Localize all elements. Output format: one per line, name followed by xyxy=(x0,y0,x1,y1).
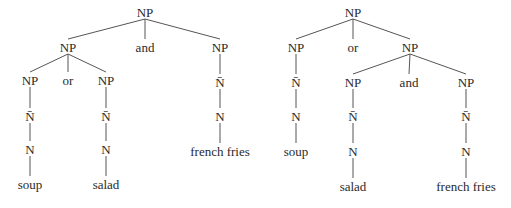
tree-node-label: N xyxy=(25,142,35,157)
tree-node-label: and xyxy=(400,75,419,90)
tree-edge xyxy=(409,54,410,74)
syntax-tree-diagram: NPNPandNPNPorNPN̄NsoupN̄NsaladN̄Nfrench … xyxy=(0,0,511,208)
tree-node-label: soup xyxy=(284,144,309,159)
tree-node-label: N̄ xyxy=(461,109,471,124)
tree-node-label: NP xyxy=(458,75,475,90)
tree-edge xyxy=(30,54,68,72)
tree-edge xyxy=(145,19,220,39)
tree-node-label: N̄ xyxy=(348,109,358,124)
tree-node-label: or xyxy=(348,40,360,55)
tree-node-label: and xyxy=(136,40,155,55)
tree-node-label: NP xyxy=(345,5,362,20)
tree-node-label: NP xyxy=(345,75,362,90)
tree-node-label: NP xyxy=(402,40,419,55)
tree-edge xyxy=(353,19,410,39)
tree-node-label: N̄ xyxy=(25,109,35,124)
tree-node-label: N xyxy=(215,109,225,124)
tree-node-label: salad xyxy=(340,179,367,194)
tree-node-label: NP xyxy=(137,5,154,20)
tree-node-label: salad xyxy=(93,177,120,192)
tree-node-label: french fries xyxy=(190,144,250,159)
tree-node-label: NP xyxy=(212,40,229,55)
tree-node-label: NP xyxy=(98,73,115,88)
tree-node-label: NP xyxy=(60,40,77,55)
tree-node-label: N̄ xyxy=(215,75,225,90)
tree-edge xyxy=(353,54,410,74)
tree-node-label: N̄ xyxy=(291,75,301,90)
tree-node-label: N xyxy=(291,109,301,124)
tree-edge xyxy=(296,19,353,39)
tree-node-label: N xyxy=(101,142,111,157)
tree-node-label: N xyxy=(461,144,471,159)
tree-left: NPNPandNPNPorNPN̄NsoupN̄NsaladN̄Nfrench … xyxy=(18,5,250,192)
tree-node-label: french fries xyxy=(436,179,496,194)
tree-edge xyxy=(410,54,466,74)
tree-node-label: N̄ xyxy=(101,109,111,124)
tree-right: NPNPorNPN̄NsoupNPandNPN̄NsaladN̄Nfrench … xyxy=(284,5,496,194)
tree-edge xyxy=(68,19,145,39)
tree-node-label: N xyxy=(348,144,358,159)
tree-svg: NPNPandNPNPorNPN̄NsoupN̄NsaladN̄Nfrench … xyxy=(0,0,511,208)
tree-edge xyxy=(68,54,106,72)
tree-node-label: NP xyxy=(22,73,39,88)
tree-node-label: NP xyxy=(288,40,305,55)
tree-node-label: soup xyxy=(18,177,43,192)
tree-node-label: or xyxy=(63,73,75,88)
